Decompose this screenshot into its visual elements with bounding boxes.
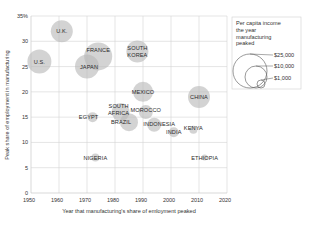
x-tick-label: 2000 <box>163 197 175 203</box>
x-axis-label: Year that manufacturing's share of emloy… <box>62 208 196 214</box>
country-label: U.S. <box>34 59 46 65</box>
x-tick-label: 1970 <box>79 197 91 203</box>
country-label: CHINA <box>190 94 208 100</box>
country-label: SOUTH <box>127 45 147 51</box>
country-label: NIGERIA <box>84 155 108 161</box>
y-axis-ticks: 05101520253035% <box>17 13 28 196</box>
country-label: KENYA <box>184 125 203 131</box>
legend: Per capita incomethe yearmanufacturingpe… <box>232 17 301 89</box>
bubble-chart: 05101520253035% 195019601970198019902000… <box>0 0 317 226</box>
y-tick-label: 20 <box>22 89 28 95</box>
country-label: MEXICO <box>132 89 155 95</box>
y-tick-label: 0 <box>25 190 28 196</box>
country-label: ETHIOPIA <box>191 155 218 161</box>
x-tick-label: 1950 <box>23 197 35 203</box>
y-tick-label: 15 <box>22 114 28 120</box>
y-tick-label: 10 <box>22 139 28 145</box>
x-tick-label: 1980 <box>107 197 119 203</box>
legend-entry-label: $10,000 <box>274 63 294 69</box>
x-tick-label: 2020 <box>219 197 231 203</box>
country-label: SOUTH <box>109 103 129 109</box>
country-label: U.K. <box>56 28 68 34</box>
x-tick-label: 1960 <box>51 197 63 203</box>
legend-title-line: manufacturing <box>236 34 271 40</box>
country-label: JAPAN <box>80 64 98 70</box>
x-tick-label: 1990 <box>135 197 147 203</box>
x-axis-ticks: 19501960197019801990200020102020 <box>23 197 231 203</box>
country-labels: U.S.U.K.JAPANFRANCESOUTHKOREAMEXICOCHINA… <box>34 28 218 160</box>
country-label: INDIA <box>166 129 182 135</box>
y-axis-label: Peak share of employment in manufacturin… <box>4 50 10 159</box>
legend-title-line: Per capita income <box>236 20 281 26</box>
legend-entry-label: $1,000 <box>274 75 291 81</box>
x-tick-label: 2010 <box>191 197 203 203</box>
country-label: EGYPT <box>79 114 99 120</box>
country-label: AFRICA <box>108 110 129 116</box>
y-tick-label: 30 <box>22 38 28 44</box>
country-label: BRAZIL <box>111 119 131 125</box>
y-tick-label: 5 <box>25 165 28 171</box>
y-tick-label: 25 <box>22 64 28 70</box>
country-label: MOROCCO <box>131 107 162 113</box>
y-tick-label: 35% <box>17 13 28 19</box>
legend-entry-label: $25,000 <box>274 52 294 58</box>
country-label: FRANCE <box>86 47 110 53</box>
country-label: INDONESIA <box>143 121 175 127</box>
legend-title-line: peaked <box>236 40 254 46</box>
legend-title-line: the year <box>236 27 256 33</box>
country-label: KOREA <box>127 52 147 58</box>
